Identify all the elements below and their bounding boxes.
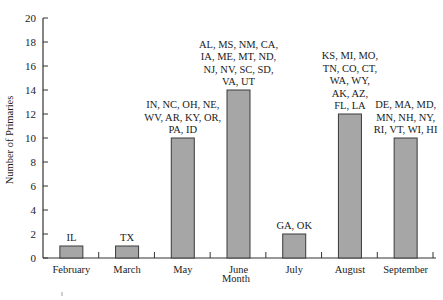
x-tick-label: February — [52, 264, 91, 275]
y-tick-label: 8 — [31, 156, 37, 168]
bar-annotation: AL, MS, NM, CA, — [199, 39, 278, 50]
x-tick-label: May — [173, 264, 193, 275]
bar-annotation: TN, CO, CT, — [323, 63, 377, 74]
x-tick-label: August — [335, 264, 365, 275]
x-axis-title: Month — [222, 273, 251, 284]
y-tick-label: 14 — [25, 84, 37, 96]
y-tick-label: 12 — [25, 108, 36, 120]
bar-annotation: KS, MI, MO, — [322, 50, 378, 61]
bar-annotation: IL — [66, 232, 76, 243]
bar-february — [60, 246, 83, 258]
y-axis: 02468101214161820 — [25, 12, 48, 264]
bar-march — [116, 246, 139, 258]
bar-annotation: IA, ME, MT, ND, — [201, 51, 276, 62]
x-tick-label: March — [113, 264, 141, 275]
y-tick-label: 18 — [25, 36, 37, 48]
bar-june — [227, 90, 250, 258]
y-axis-title: Number of Primaries — [4, 96, 15, 185]
bar-annotation: NJ, NV, SC, SD, — [203, 64, 273, 75]
bar-annotation: WA, WY, — [330, 75, 370, 86]
bar-annotation: DE, MA, MD, — [375, 99, 436, 110]
y-tick-label: 0 — [31, 252, 37, 264]
bar-may — [171, 138, 194, 258]
y-tick-label: 2 — [31, 228, 37, 240]
bar-annotation: IN, NC, OH, NE, — [146, 99, 219, 110]
bar-annotation: WV, AR, KY, OR, — [144, 112, 221, 123]
bar-annotation: RI, VT, WI, HI — [374, 124, 438, 135]
bar-annotation: MN, NH, NY, — [376, 112, 435, 123]
bars — [60, 90, 417, 258]
y-tick-label: 6 — [31, 180, 37, 192]
y-tick-label: 10 — [25, 132, 37, 144]
bar-annotation: FL, LA — [334, 100, 366, 111]
y-tick-label: 16 — [25, 60, 37, 72]
x-tick-label: July — [285, 264, 303, 275]
bar-annotation: TX — [120, 232, 134, 243]
bar-annotation: PA, ID — [168, 124, 197, 135]
bar-august — [338, 114, 361, 258]
bar-july — [283, 234, 306, 258]
bar-annotations: ILTXIN, NC, OH, NE,WV, AR, KY, OR,PA, ID… — [66, 39, 438, 244]
y-tick-label: 20 — [25, 12, 37, 24]
y-tick-label: 4 — [31, 204, 37, 216]
bar-annotation: AK, AZ, — [332, 88, 368, 99]
bar-chart: 02468101214161820 FebruaryMarchMayJuneJu… — [0, 0, 443, 300]
x-tick-label: September — [383, 264, 428, 275]
bar-annotation: VA, UT — [222, 76, 256, 87]
bar-september — [394, 138, 417, 258]
bar-annotation: GA, OK — [276, 220, 312, 231]
